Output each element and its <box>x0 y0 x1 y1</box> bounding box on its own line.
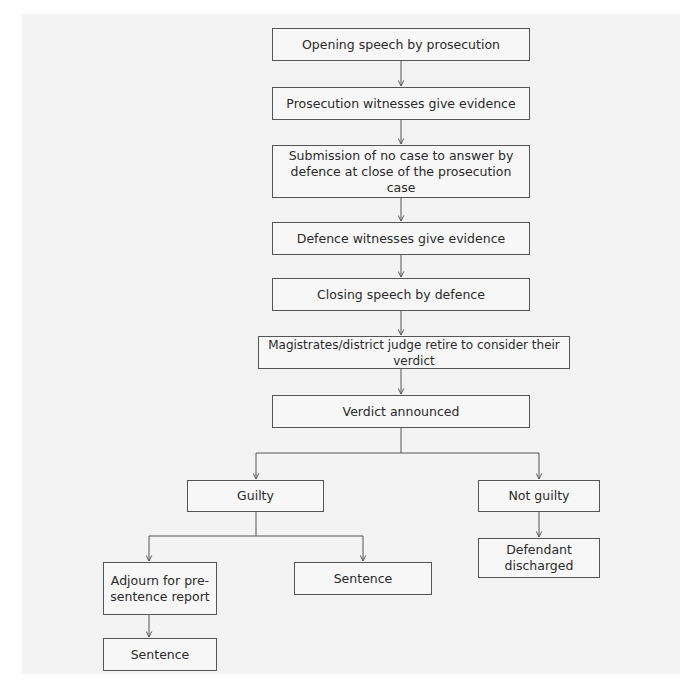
node-label: Prosecution witnesses give evidence <box>286 96 515 112</box>
node-sentence-direct: Sentence <box>294 562 432 595</box>
node-opening-speech: Opening speech by prosecution <box>272 28 530 61</box>
node-verdict-announced: Verdict announced <box>272 395 530 428</box>
node-defendant-discharged: Defendant discharged <box>478 538 600 578</box>
node-prosecution-witnesses: Prosecution witnesses give evidence <box>272 87 530 120</box>
node-label: Verdict announced <box>343 404 460 420</box>
node-label: Not guilty <box>509 488 570 504</box>
node-defence-witnesses: Defence witnesses give evidence <box>272 222 530 255</box>
node-label: Sentence <box>131 647 190 663</box>
node-guilty: Guilty <box>187 480 324 512</box>
node-adjourn-for-report: Adjourn for pre- sentence report <box>103 562 217 615</box>
node-label-line1: Defendant <box>506 542 572 558</box>
node-not-guilty: Not guilty <box>478 480 600 512</box>
node-label: Magistrates/district judge retire to con… <box>263 337 565 369</box>
node-magistrates-retire: Magistrates/district judge retire to con… <box>258 336 570 369</box>
node-label-line2: defence at close of the prosecution case <box>277 164 525 196</box>
node-label: Opening speech by prosecution <box>302 37 500 53</box>
node-sentence-after-report: Sentence <box>103 638 217 671</box>
node-label: Sentence <box>334 571 393 587</box>
node-label: Guilty <box>237 488 274 504</box>
node-label: Defence witnesses give evidence <box>297 231 505 247</box>
node-no-case-submission: Submission of no case to answer by defen… <box>272 145 530 198</box>
node-label-line1: Adjourn for pre- <box>111 573 209 589</box>
node-closing-speech: Closing speech by defence <box>272 278 530 311</box>
node-label-line2: discharged <box>505 558 574 574</box>
node-label: Closing speech by defence <box>317 287 485 303</box>
node-label-line2: sentence report <box>110 589 209 605</box>
node-label-line1: Submission of no case to answer by <box>289 148 514 164</box>
